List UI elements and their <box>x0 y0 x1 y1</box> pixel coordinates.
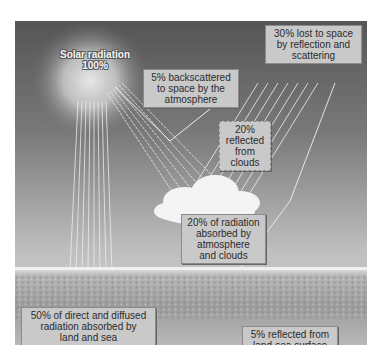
radiation-budget-diagram: Solar radiation 100% 5% backscattered to… <box>15 21 367 345</box>
solar-radiation-label: Solar radiation 100% <box>55 49 135 71</box>
reflected-from-clouds-label: 20% reflected from clouds <box>219 121 271 171</box>
absorbed-atmosphere-label: 20% of radiation absorbed by atmosphere … <box>181 214 266 264</box>
lost-to-space-label: 30% lost to space by reflection and scat… <box>265 25 362 64</box>
absorbed-land-sea-label: 50% of direct and diffused radiation abs… <box>21 307 156 345</box>
reflected-surface-label: 5% reflected from land-sea surface <box>242 326 338 345</box>
backscattered-label: 5% backscattered to space by the atmosph… <box>143 69 239 108</box>
